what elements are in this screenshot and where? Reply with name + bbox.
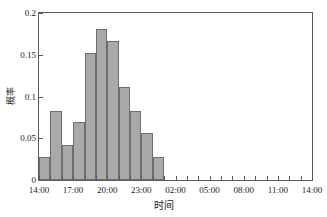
x-tick-label: 14:00 <box>302 185 323 195</box>
x-tick-mark <box>289 176 290 180</box>
bar <box>153 157 164 180</box>
x-tick-mark <box>164 176 165 180</box>
x-tick-mark <box>130 176 131 180</box>
x-tick-mark <box>255 176 256 180</box>
x-axis-title: 时间 <box>0 200 327 211</box>
x-tick-mark <box>141 176 142 180</box>
x-tick-mark <box>176 176 177 180</box>
x-tick-mark <box>50 176 51 180</box>
x-tick-mark <box>210 176 211 180</box>
plot-area: 00.050.10.150.2 14:0017:0020:0023:0002:0… <box>38 12 313 181</box>
y-tick-label: 0.1 <box>25 92 36 101</box>
x-tick-mark <box>107 176 108 180</box>
x-tick-mark <box>39 176 40 180</box>
bar <box>141 133 152 180</box>
bar <box>96 29 107 180</box>
bar <box>39 157 50 180</box>
x-tick-mark <box>301 176 302 180</box>
x-tick-mark <box>96 176 97 180</box>
x-tick-label: 02:00 <box>165 185 186 195</box>
y-tick-label: 0.05 <box>20 134 36 143</box>
x-tick-mark <box>73 176 74 180</box>
x-tick-label: 17:00 <box>63 185 84 195</box>
bar <box>73 122 84 180</box>
x-tick-mark <box>232 176 233 180</box>
bar <box>62 145 73 180</box>
bar <box>50 111 61 180</box>
x-tick-mark <box>312 176 313 180</box>
x-tick-mark <box>187 176 188 180</box>
x-tick-label: 23:00 <box>131 185 152 195</box>
x-tick-label: 20:00 <box>97 185 118 195</box>
y-tick-mark <box>39 180 43 181</box>
x-tick-mark <box>85 176 86 180</box>
bar <box>107 41 118 180</box>
y-tick-label: 0 <box>32 176 37 185</box>
y-tick-label: 0.15 <box>20 50 36 59</box>
x-tick-mark <box>221 176 222 180</box>
x-tick-mark <box>62 176 63 180</box>
x-tick-label: 08:00 <box>233 185 254 195</box>
x-tick-label: 11:00 <box>268 185 288 195</box>
bar-series <box>39 13 312 180</box>
x-tick-mark <box>244 176 245 180</box>
bar <box>85 53 96 180</box>
x-tick-mark <box>119 176 120 180</box>
x-tick-mark <box>278 176 279 180</box>
y-axis-title: 概率 <box>6 87 16 105</box>
x-tick-mark <box>153 176 154 180</box>
x-tick-mark <box>267 176 268 180</box>
bar <box>130 111 141 180</box>
y-tick-label: 0.2 <box>25 9 36 18</box>
x-tick-mark <box>198 176 199 180</box>
bar <box>119 87 130 180</box>
histogram-figure: 00.050.10.150.2 14:0017:0020:0023:0002:0… <box>0 0 327 217</box>
x-tick-label: 05:00 <box>199 185 220 195</box>
x-tick-label: 14:00 <box>29 185 50 195</box>
